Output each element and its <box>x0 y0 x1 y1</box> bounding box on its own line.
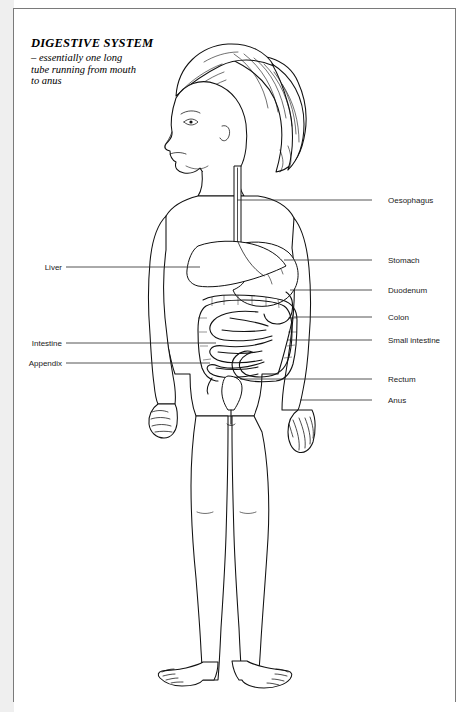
label-colon: Colon <box>388 313 409 322</box>
left-hand <box>149 404 178 438</box>
label-small-intestine: Small intestine <box>388 336 440 345</box>
label-rectum: Rectum <box>388 375 416 384</box>
pupil <box>189 120 192 123</box>
label-intestine: Intestine <box>0 339 62 348</box>
label-anus: Anus <box>388 396 406 405</box>
face-profile <box>165 82 247 180</box>
label-appendix: Appendix <box>0 359 62 368</box>
anatomy-illustration <box>0 0 472 712</box>
right-hand <box>288 410 315 453</box>
label-duodenum: Duodenum <box>388 286 427 295</box>
right-foot <box>232 661 292 688</box>
left-foot <box>158 662 218 686</box>
diagram-page: DIGESTIVE SYSTEM – essentially one long … <box>0 0 472 712</box>
label-liver: Liver <box>0 263 62 272</box>
label-oesophagus: Oesophagus <box>388 196 433 205</box>
right-leg <box>232 416 269 680</box>
left-leg <box>191 416 228 680</box>
label-stomach: Stomach <box>388 256 420 265</box>
